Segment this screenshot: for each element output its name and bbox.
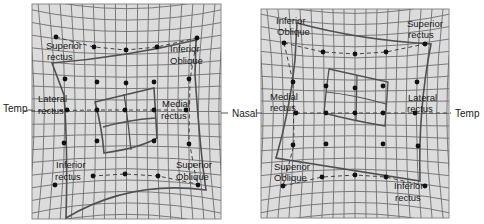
hess-chart-figure: Superior rectus Inferior Oblique Lateral… <box>0 0 484 224</box>
left-label-medial-rectus-line1: Medial <box>162 98 190 109</box>
left-label-medial-rectus-line2: rectus <box>161 110 187 121</box>
nasal-label: Nasal <box>232 108 258 119</box>
left-label-lateral-rectus-line2: rectus <box>38 105 64 116</box>
left-label-superior-oblique-line1: Superior <box>176 159 212 170</box>
right-label-superior-rectus-line2: rectus <box>408 29 434 40</box>
left-label-inferior-rectus-line1: Inferior <box>56 159 86 170</box>
left-label-inferior-oblique-line1: Inferior <box>170 43 200 54</box>
right-label-medial-rectus-line2: rectus <box>270 102 296 113</box>
right-label-lateral-rectus-line2: rectus <box>407 103 433 114</box>
right-label-inferior-rectus-line1: Inferior <box>394 180 424 191</box>
right-label-superior-oblique-line2: Oblique <box>274 172 307 183</box>
right-label-superior-oblique-line1: Superior <box>274 161 310 172</box>
right-eye-chart: Inferior Oblique Superior rectus Medial … <box>244 0 465 224</box>
right-label-lateral-rectus-line1: Lateral <box>408 92 437 103</box>
right-label-inferior-rectus-line2: rectus <box>395 192 421 203</box>
right-label-medial-rectus-line1: Medial <box>270 91 298 102</box>
left-label-superior-rectus-line2: rectus <box>47 51 73 62</box>
left-eye-chart: Superior rectus Inferior Oblique Lateral… <box>15 0 237 224</box>
right-label-inferior-oblique-line2: Oblique <box>277 26 310 37</box>
right-temp-label: Temp <box>455 108 480 119</box>
left-temp-label: Temp <box>3 103 28 114</box>
left-label-superior-rectus-line1: Superior <box>46 40 82 51</box>
left-label-superior-oblique-line2: Oblique <box>176 171 209 182</box>
left-label-inferior-rectus-line2: rectus <box>55 171 81 182</box>
left-label-lateral-rectus-line1: Lateral <box>38 93 67 104</box>
right-label-superior-rectus-line1: Superior <box>407 18 443 29</box>
right-label-inferior-oblique-line1: Inferior <box>276 15 306 26</box>
left-label-inferior-oblique-line2: Oblique <box>170 55 203 66</box>
